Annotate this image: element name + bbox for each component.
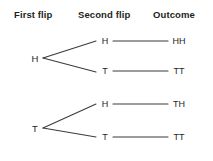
- first-flip-node-t: T: [32, 123, 38, 134]
- branch-line-h-to-h: [43, 41, 96, 58]
- second-flip-node-t-t: T: [102, 132, 108, 142]
- branch-line-t-to-t: [43, 128, 96, 137]
- outcome-node-th: TH: [173, 99, 185, 109]
- coin-flip-tree-diagram: First flip Second flip Outcome H T H T H…: [0, 0, 213, 161]
- first-flip-node-h: H: [32, 53, 39, 64]
- column-header-first-flip: First flip: [14, 9, 52, 20]
- outcome-node-tt-lower: TT: [174, 132, 185, 142]
- outcome-node-tt-upper: TT: [174, 66, 185, 76]
- column-header-outcome: Outcome: [153, 9, 195, 20]
- second-flip-node-h-t: T: [102, 66, 108, 76]
- branch-line-h-to-t: [43, 58, 96, 72]
- column-header-second-flip: Second flip: [78, 9, 130, 20]
- second-flip-node-h-h: H: [102, 36, 109, 46]
- outcome-node-hh: HH: [173, 36, 186, 46]
- second-flip-node-t-h: H: [102, 99, 109, 109]
- branch-line-t-to-h: [43, 104, 96, 128]
